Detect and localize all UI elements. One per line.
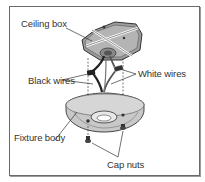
label-fixture-body: Fixture body	[14, 132, 65, 143]
fixture-body-graphic	[66, 93, 144, 132]
label-black-wires: Black wires	[28, 75, 75, 86]
label-cap-nuts: Cap nuts	[107, 159, 144, 170]
label-white-wires: White wires	[138, 68, 186, 79]
label-ceiling-box: Ceiling box	[21, 18, 67, 29]
ceiling-box-graphic	[82, 22, 142, 60]
wires-graphic	[87, 56, 124, 92]
